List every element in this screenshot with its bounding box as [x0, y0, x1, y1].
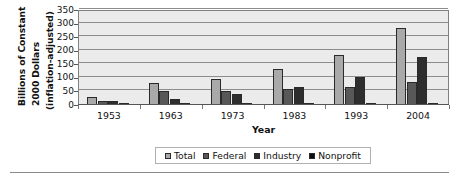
x-tick-mark-6 [449, 105, 450, 109]
legend-swatch-federal-icon [203, 153, 209, 159]
gridline-250 [79, 35, 448, 36]
legend-label-federal: Federal [212, 151, 246, 160]
y-tick-mark-0 [74, 105, 78, 106]
y-axis-tick-labels: 050100150200250300350 [48, 0, 74, 112]
legend-label-total: Total [174, 151, 195, 160]
gridline-100 [79, 76, 448, 77]
x-tick-mark-1 [140, 105, 141, 109]
y-tick-label-300: 300 [50, 19, 74, 28]
y-tick-mark-200 [74, 51, 78, 52]
legend-swatch-nonprofit-icon [309, 153, 315, 159]
x-tick-mark-5 [387, 105, 388, 109]
plot-area [78, 10, 449, 105]
x-tick-label-1993: 1993 [326, 110, 386, 121]
y-tick-label-0: 0 [50, 101, 74, 110]
x-tick-mark-3 [264, 105, 265, 109]
chart-figure: Billions of Constant 2000 Dollars (infla… [0, 0, 459, 181]
y-tick-mark-50 [74, 91, 78, 92]
gridline-300 [79, 22, 448, 23]
footer-divider [10, 172, 449, 173]
x-tick-label-1953: 1953 [79, 110, 139, 121]
x-tick-label-1963: 1963 [141, 110, 201, 121]
gridlines [79, 11, 448, 104]
gridline-350 [79, 8, 448, 9]
legend-label-nonprofit: Nonprofit [318, 151, 361, 160]
legend-swatch-industry-icon [254, 153, 260, 159]
y-tick-mark-250 [74, 37, 78, 38]
gridline-200 [79, 49, 448, 50]
y-tick-label-250: 250 [50, 33, 74, 42]
x-tick-mark-4 [325, 105, 326, 109]
gridline-150 [79, 62, 448, 63]
chart-legend: TotalFederalIndustryNonprofit [155, 147, 371, 164]
y-tick-label-50: 50 [50, 87, 74, 96]
legend-item-nonprofit[interactable]: Nonprofit [309, 151, 361, 160]
y-tick-mark-100 [74, 78, 78, 79]
x-tick-label-1983: 1983 [264, 110, 324, 121]
legend-item-total[interactable]: Total [165, 151, 195, 160]
y-tick-mark-300 [74, 24, 78, 25]
y-tick-label-350: 350 [50, 6, 74, 15]
y-tick-label-200: 200 [50, 46, 74, 55]
y-tick-mark-350 [74, 10, 78, 11]
x-tick-mark-0 [78, 105, 79, 109]
y-axis-title-line-2: 2000 Dollars [30, 42, 41, 106]
legend-item-federal[interactable]: Federal [203, 151, 246, 160]
legend-swatch-total-icon [165, 153, 171, 159]
y-tick-label-100: 100 [50, 73, 74, 82]
legend-label-industry: Industry [263, 151, 301, 160]
x-axis-title: Year [78, 124, 449, 135]
x-tick-mark-2 [202, 105, 203, 109]
y-tick-label-150: 150 [50, 60, 74, 69]
x-tick-label-1973: 1973 [203, 110, 263, 121]
legend-item-industry[interactable]: Industry [254, 151, 301, 160]
gridline-50 [79, 89, 448, 90]
x-tick-label-2004: 2004 [388, 110, 448, 121]
y-axis-title-line-1: Billions of Constant [16, 7, 27, 106]
y-tick-mark-150 [74, 64, 78, 65]
